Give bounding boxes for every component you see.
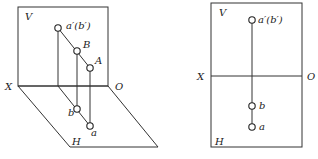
label-a-prime-b-prime: a′(b′) xyxy=(66,20,91,31)
label-v: V xyxy=(219,7,228,18)
point-B xyxy=(74,48,80,54)
point-a xyxy=(249,124,255,130)
label-h: H xyxy=(214,136,224,147)
label-a: a xyxy=(91,127,97,138)
label-h: H xyxy=(71,136,81,147)
projection-diagram: V a′(b′) B A X O b a H V a′(b′) X O b a … xyxy=(0,0,318,159)
pictorial-view: V a′(b′) B A X O b a H xyxy=(4,7,158,147)
label-b: b xyxy=(259,100,265,111)
h-plane xyxy=(18,86,158,147)
point-A xyxy=(87,65,93,71)
label-B: B xyxy=(82,39,90,50)
point-b xyxy=(74,106,80,112)
label-a: a xyxy=(259,121,265,132)
label-a-prime-b-prime: a′(b′) xyxy=(258,14,283,25)
point-a-prime-b-prime xyxy=(55,25,61,31)
point-b xyxy=(249,103,255,109)
label-v: V xyxy=(25,11,34,22)
label-x: X xyxy=(196,71,205,82)
label-o: O xyxy=(115,81,123,92)
label-x: X xyxy=(4,81,13,92)
label-b: b xyxy=(68,107,74,118)
projection-frame xyxy=(211,3,302,147)
label-o: O xyxy=(307,71,315,82)
orthographic-view: V a′(b′) X O b a H xyxy=(196,3,315,147)
point-a-prime-b-prime xyxy=(249,17,255,23)
projector-axis-to-a xyxy=(58,86,90,126)
label-A: A xyxy=(94,55,102,66)
